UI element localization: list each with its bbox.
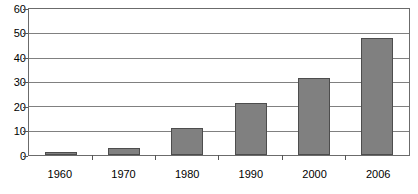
x-axis-tick-label: 1980	[155, 168, 219, 180]
bar-series	[29, 9, 409, 155]
bar-cell	[282, 9, 345, 155]
bar-1980	[171, 128, 203, 155]
x-axis-tick-mark	[345, 155, 346, 160]
x-axis-tick-mark	[92, 155, 93, 160]
x-axis-tick-label: 1970	[92, 168, 156, 180]
bar-cell	[346, 9, 409, 155]
bar-cell	[156, 9, 219, 155]
x-axis-tick-label: 1960	[28, 168, 92, 180]
bar-1970	[108, 148, 140, 155]
x-axis-tick-label: 1990	[219, 168, 283, 180]
bar-1960	[45, 152, 77, 155]
y-axis-labels: 60 50 40 30 20 10 0	[0, 0, 26, 160]
y-axis-tick-mark	[23, 156, 28, 157]
bar-2000	[298, 78, 330, 155]
x-axis-tick-label: 2006	[346, 168, 410, 180]
bar-2006	[361, 38, 393, 155]
x-axis-tick-mark	[155, 155, 156, 160]
x-axis-labels: 1960 1970 1980 1990 2000 2006	[28, 168, 410, 180]
bar-chart: 60 50 40 30 20 10 0	[0, 0, 418, 194]
bar-cell	[92, 9, 155, 155]
plot-area	[28, 8, 410, 156]
bar-cell	[219, 9, 282, 155]
x-axis-tick-mark	[218, 155, 219, 160]
x-axis-tick-mark	[282, 155, 283, 160]
x-axis-tick-label: 2000	[283, 168, 347, 180]
bar-1990	[235, 103, 267, 155]
bar-cell	[29, 9, 92, 155]
